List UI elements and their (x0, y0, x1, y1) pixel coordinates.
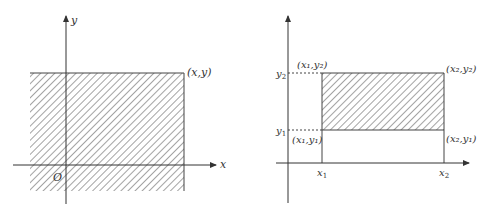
tick-x1: x1 (317, 167, 327, 180)
corner-top-left-label: (x₁,y₂) (297, 59, 327, 70)
tick-y2: y2 (275, 68, 286, 81)
origin-label: O (53, 171, 62, 184)
y-axis-label: y (70, 14, 78, 27)
left-diagram: y x O (x,y) (13, 14, 227, 204)
diagram-canvas: y x O (x,y) y2 y1 x1 x2 (x₁,y₂) (x₂,y₂) … (0, 0, 484, 216)
tick-y1: y1 (275, 125, 286, 138)
hatched-region (322, 73, 444, 130)
corner-top-right-label: (x₂,y₂) (446, 63, 476, 74)
x-axis-label: x (220, 158, 227, 171)
tick-x2: x2 (439, 167, 449, 180)
corner-label: (x,y) (187, 66, 212, 79)
corner-bottom-left-label: (x₁,y₁) (292, 134, 322, 145)
right-diagram: y2 y1 x1 x2 (x₁,y₂) (x₂,y₂) (x₁,y₁) (x₂,… (275, 16, 476, 203)
corner-bottom-right-label: (x₂,y₁) (446, 133, 476, 144)
